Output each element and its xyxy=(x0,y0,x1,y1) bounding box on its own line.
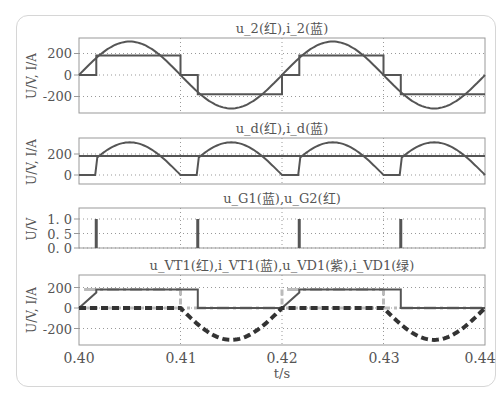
panel3-ytick: 0. 5 xyxy=(47,227,72,242)
panel2-ytick: 200 xyxy=(47,147,72,162)
panel4-ytick: 0 xyxy=(64,301,72,316)
panel3-ytick: 1. 0 xyxy=(47,212,72,227)
panel3-ytick: 0. 0 xyxy=(47,241,72,256)
xtick-label: 0.40 xyxy=(63,350,94,366)
panel1-title: u_2(红),i_2(蓝) xyxy=(236,21,329,36)
panel3-title: u_G1(蓝),u_G2(红) xyxy=(223,191,340,206)
xtick-label: 0.42 xyxy=(266,350,297,366)
panel4-ytick: 200 xyxy=(47,281,72,296)
panel1-ytick: 0 xyxy=(64,68,72,83)
panel2-ytick: 0 xyxy=(64,168,72,183)
panel4-ytick: -200 xyxy=(43,322,72,337)
panel1-ytick: 200 xyxy=(47,46,72,61)
panel1-ytick: -200 xyxy=(43,89,72,104)
xtick-label: 0.41 xyxy=(165,350,196,366)
panel3-ylabel: U/V xyxy=(25,217,39,240)
xtick-label: 0.44 xyxy=(464,350,495,366)
panel4-title: u_VT1(红),i_VT1(蓝),u_VD1(紫),i_VD1(绿) xyxy=(150,258,415,273)
panel1-ylabel: U/V, I/A xyxy=(25,53,39,99)
waveform-figure: u_2(红),i_2(蓝) u_d(红),i_d(蓝) u_G1(蓝),u_G2… xyxy=(0,0,501,400)
x-axis-label: t/s xyxy=(274,366,290,381)
xtick-label: 0.43 xyxy=(368,350,399,366)
panel2-title: u_d(红),i_d(蓝) xyxy=(236,121,329,136)
panel2-ylabel: U/V, I/A xyxy=(25,139,39,185)
panel4-ylabel: U/V, I/A xyxy=(25,287,39,333)
